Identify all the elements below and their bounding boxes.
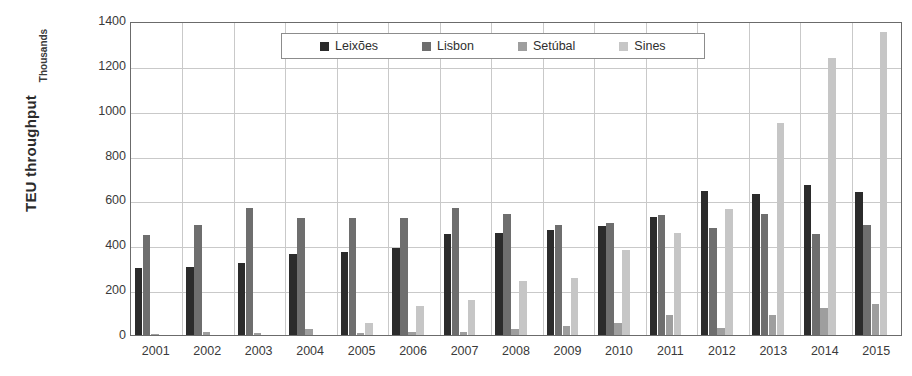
gridline-vertical [697,23,698,335]
bar [872,304,880,335]
bar [674,233,682,335]
gridline-vertical [543,23,544,335]
bar [254,333,262,335]
bar [365,323,373,335]
gridline-vertical [594,23,595,335]
bar [194,225,202,335]
gridline-vertical [388,23,389,335]
chart-legend: LeixõesLisbonSetúbalSines [281,33,705,59]
x-axis-tick-label: 2009 [554,344,582,358]
gridline-vertical [491,23,492,335]
bar [460,332,468,335]
x-axis-tick-label: 2003 [245,344,273,358]
legend-item[interactable]: Leixões [298,39,400,53]
y-axis-tick-label: 0 [80,328,126,342]
gridline-vertical [800,23,801,335]
bar [408,332,416,335]
bar [392,248,400,335]
bar [598,226,606,335]
bar [400,218,408,335]
bar [349,218,357,335]
legend-label: Lisbon [437,39,474,53]
y-axis-tick-label: 1400 [80,14,126,28]
bar [614,323,622,335]
bar [452,208,460,335]
x-axis-tick-label: 2001 [142,344,170,358]
x-axis-tick-label: 2005 [348,344,376,358]
legend-swatch-icon [518,42,527,51]
bar [555,225,563,335]
bar [416,306,424,335]
gridline-vertical [337,23,338,335]
gridline-vertical [440,23,441,335]
legend-label: Setúbal [533,39,575,53]
y-axis-tick-label: 1200 [80,59,126,73]
gridline-vertical [852,23,853,335]
legend-item[interactable]: Sines [597,39,687,53]
x-axis-tick-label: 2002 [193,344,221,358]
legend-item[interactable]: Setúbal [496,39,597,53]
legend-swatch-icon [619,42,628,51]
plot-area [130,22,902,336]
x-axis-tick-label: 2015 [862,344,890,358]
bar [622,250,630,335]
gridline-vertical [646,23,647,335]
bar [519,281,527,335]
y-axis-title: TEU throughput [22,64,39,244]
y-axis-tick-label: 800 [80,149,126,163]
bar [503,214,511,335]
legend-label: Leixões [335,39,378,53]
bar [305,329,313,335]
x-axis-tick-label: 2010 [605,344,633,358]
x-axis-tick-label: 2007 [451,344,479,358]
bar [511,329,519,335]
bar [246,208,254,335]
y-axis-tick-label: 600 [80,193,126,207]
x-axis-tick-label: 2013 [759,344,787,358]
bar [468,300,476,335]
bar [709,228,717,335]
bar [238,263,246,335]
bar [444,234,452,335]
bar [880,32,888,335]
y-axis-tick-label: 400 [80,238,126,252]
legend-swatch-icon [422,42,431,51]
bar [143,235,151,335]
bar [297,218,305,335]
bar [357,333,365,335]
bar [769,315,777,335]
x-axis-tick-label: 2006 [399,344,427,358]
bar [666,315,674,335]
bar [650,217,658,335]
x-axis-tick-label: 2011 [657,344,684,358]
gridline-horizontal [131,113,901,114]
bar [151,334,159,335]
bar [563,326,571,335]
bar [606,223,614,335]
legend-label: Sines [634,39,665,53]
x-axis-tick-label: 2008 [502,344,530,358]
bar [777,123,785,335]
bar [863,225,871,335]
y-axis-tick-label: 1000 [80,104,126,118]
legend-swatch-icon [320,42,329,51]
bar [701,191,709,335]
bar [820,308,828,335]
x-axis-tick-label: 2004 [296,344,324,358]
bar [752,194,760,335]
bar [186,267,194,335]
bar [761,214,769,335]
bar [495,233,503,335]
legend-item[interactable]: Lisbon [400,39,496,53]
bar [289,254,297,335]
bar [203,332,211,335]
bar [804,185,812,335]
gridline-vertical [749,23,750,335]
x-axis-tick-label: 2014 [811,344,839,358]
chart-container: TEU throughput Thousands 020040060080010… [0,0,912,376]
bar [717,328,725,335]
gridline-vertical [285,23,286,335]
bar [571,278,579,335]
bar [812,234,820,335]
bar [341,252,349,335]
